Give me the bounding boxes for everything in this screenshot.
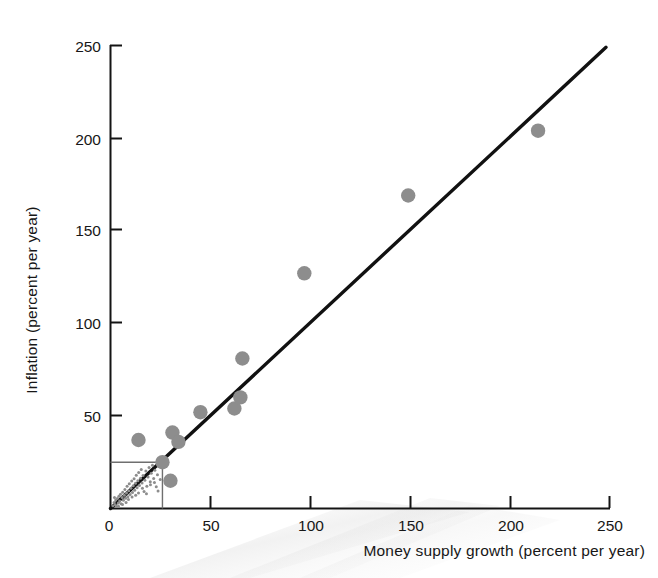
data-point [131,433,145,447]
data-point-small [135,474,138,477]
data-point [155,455,169,469]
data-point-small [155,485,158,488]
x-tick-label-200: 200 [498,517,524,534]
data-point-small [141,481,144,484]
scatter-chart: 250 200 150 100 50 0 50 100 150 200 250 … [0,0,658,578]
data-point-small [125,501,128,504]
data-point-small [159,478,162,481]
data-point [401,188,415,202]
data-point-small [149,480,152,483]
data-point-small [143,490,146,493]
data-point-small [129,493,132,496]
data-point-small [150,472,153,475]
data-point-small [141,487,144,490]
x-axis-title: Money supply growth (percent per year) [363,542,645,559]
data-point-small [123,488,126,491]
data-point-small [123,494,126,497]
data-point-small [153,481,156,484]
data-point-small [133,489,136,492]
data-point [297,266,311,280]
data-point-small [136,486,139,489]
data-point [193,405,207,419]
data-point-small [136,479,139,482]
data-point-small [121,496,124,499]
data-point-small [133,477,136,480]
data-point-small [144,470,147,473]
data-point-small [127,498,130,501]
data-point-small [129,487,132,490]
data-point-small [117,505,120,508]
data-point-small [137,491,140,494]
data-point-small [132,484,135,487]
data-point-small [127,489,130,492]
data-point [233,390,247,404]
data-point-small [131,496,134,499]
data-point-small [121,503,124,506]
x-tick-label-0: 0 [105,517,114,534]
data-point [531,123,545,137]
data-point [163,474,177,488]
data-point-small [126,495,129,498]
y-tick-label-200: 200 [75,131,101,148]
data-point-small [134,494,137,497]
data-point-small [149,483,152,486]
y-tick-label-50: 50 [84,408,102,425]
data-point-small [128,482,131,485]
data-point-small [121,491,124,494]
data-point [171,435,185,449]
data-point-small [143,479,146,482]
data-point-small [130,480,133,483]
data-point-small [140,468,143,471]
x-tick-label-100: 100 [298,517,324,534]
data-point-small [113,496,116,499]
data-point-small [134,482,137,485]
data-point-small [138,484,141,487]
data-point-small [145,492,148,495]
data-point [235,351,249,365]
x-tick-label-150: 150 [398,517,424,534]
data-point-small [153,469,156,472]
data-point-small [125,491,128,494]
data-point-small [152,477,155,480]
y-tick-label-100: 100 [75,315,101,332]
y-tick-label-150: 150 [75,222,101,239]
x-tick-label-50: 50 [202,517,220,534]
data-point-small [142,474,145,477]
x-tick-label-250: 250 [597,517,623,534]
data-point-small [137,471,140,474]
data-point-small [148,466,151,469]
data-point-small [147,476,150,479]
data-point-small [156,473,159,476]
data-point-small [157,490,160,493]
data-point-small [119,493,122,496]
chart-background [0,0,658,578]
data-point-small [122,499,125,502]
data-point-small [131,491,134,494]
data-point-small [145,485,148,488]
y-axis-title: Inflation (percent per year) [23,206,40,393]
y-tick-label-250: 250 [75,38,101,55]
data-point-small [118,499,121,502]
data-point-small [151,464,154,467]
data-point-small [126,485,129,488]
data-point-small [139,477,142,480]
